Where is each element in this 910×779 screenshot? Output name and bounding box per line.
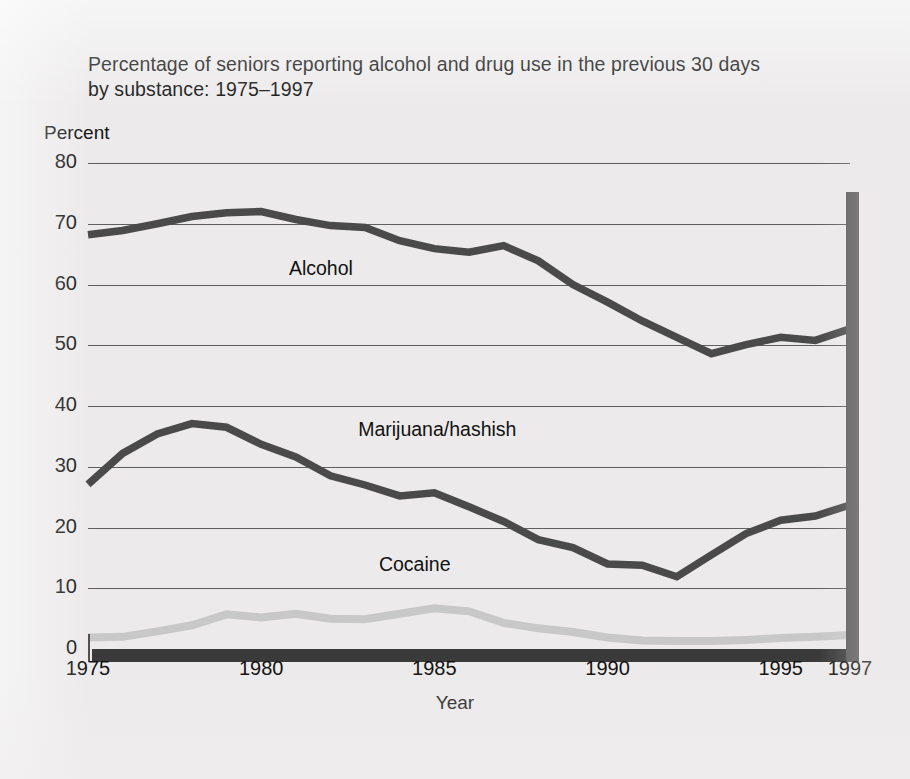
x-tick-label: 1985 [412, 657, 457, 680]
x-tick-label: 1995 [758, 657, 803, 680]
y-tick-label: 60 [55, 272, 77, 295]
chart-title-line-2: by substance: 1975–1997 [88, 77, 768, 102]
y-tick-label: 20 [55, 515, 77, 538]
series-line [88, 212, 850, 354]
y-tick-label: 40 [55, 393, 77, 416]
x-axis-bar [92, 649, 852, 662]
y-tick-label: 80 [55, 150, 77, 173]
series-label: Marijuana/hashish [358, 418, 516, 441]
series-label: Alcohol [289, 257, 353, 280]
chart-title-line-1: Percentage of seniors reporting alcohol … [88, 52, 768, 77]
y-tick-label: 50 [55, 332, 77, 355]
chart-page: Percentage of seniors reporting alcohol … [0, 0, 910, 779]
series-line [88, 608, 850, 641]
series-line [88, 424, 850, 577]
x-tick-label: 1980 [239, 657, 284, 680]
series-lines [88, 163, 850, 649]
y-tick-label: 0 [66, 636, 77, 659]
plot-area: 01020304050607080 [88, 163, 850, 649]
x-tick-label: 1997 [828, 657, 873, 680]
y-axis-label: Percent [44, 122, 109, 144]
x-tick-label: 1975 [66, 657, 111, 680]
chart-title: Percentage of seniors reporting alcohol … [88, 52, 768, 102]
x-tick-label: 1990 [585, 657, 630, 680]
y-axis-origin-tick [88, 634, 90, 650]
right-edge-bar [846, 192, 859, 662]
y-tick-label: 70 [55, 211, 77, 234]
series-label: Cocaine [379, 553, 451, 576]
y-tick-label: 10 [55, 575, 77, 598]
y-tick-label: 30 [55, 454, 77, 477]
x-axis-label: Year [0, 692, 910, 714]
